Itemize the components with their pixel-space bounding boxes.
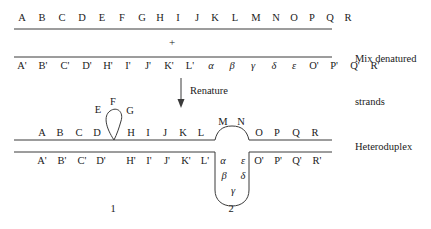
bottom-strand-greek: γ — [251, 60, 255, 71]
hd-bottom-letter: Q' — [292, 155, 301, 166]
loop2-top-arch — [215, 126, 249, 140]
loop2-greek-delta: δ — [241, 170, 246, 181]
top-strand-letter: C — [58, 12, 65, 23]
hd-top-letter: O — [255, 127, 263, 138]
loop1-letter-g: G — [126, 105, 134, 116]
hd-top-letter: Q — [292, 127, 300, 138]
hd-top-letter: K — [179, 127, 187, 138]
hd-top-letter: R — [311, 127, 318, 138]
loop2-greek-alpha: α — [220, 155, 226, 166]
bottom-strand-letter: I' — [125, 60, 130, 71]
hd-bottom-letter: B' — [58, 155, 67, 166]
hd-top-letter: D — [93, 127, 101, 138]
loop-number-2: 2 — [228, 203, 233, 214]
top-strand-letter: Q — [326, 12, 334, 23]
bottom-strand-letter: J' — [145, 60, 151, 71]
hd-top-letter: I — [146, 127, 150, 138]
hd-top-letter: L — [198, 127, 204, 138]
bottom-strand-letter: C' — [61, 60, 70, 71]
top-strand-letter: R — [344, 12, 351, 23]
bottom-strand-letter: A' — [17, 60, 26, 71]
hd-bottom-letter: J' — [164, 155, 170, 166]
hd-bottom-letter: I' — [146, 155, 151, 166]
bottom-strand-greek: α — [208, 60, 214, 71]
top-strand-letter: M — [251, 12, 260, 23]
side-label-heteroduplex: Heteroduplex — [355, 140, 412, 154]
bottom-strand-greek: δ — [272, 60, 277, 71]
top-strand-letter: A — [18, 12, 26, 23]
side-label-mix-denatured: Mix denatured strands — [355, 24, 417, 137]
top-strand-letter: K — [211, 12, 219, 23]
top-strand-letter: H — [156, 12, 164, 23]
hd-bottom-letter: O' — [254, 155, 263, 166]
top-strand-letter: B — [38, 12, 45, 23]
loop2-greek-beta: β — [221, 170, 226, 181]
bottom-strand-letter: B' — [39, 60, 48, 71]
hd-bottom-letter: A' — [37, 155, 46, 166]
loop2-greek-epsilon: ε — [241, 155, 245, 166]
loop1-letter-e: E — [95, 104, 101, 115]
top-strand-letter: N — [272, 12, 280, 23]
top-strand-letter: F — [119, 12, 125, 23]
top-strand-letter: E — [99, 12, 105, 23]
hd-bottom-letter: R' — [313, 155, 322, 166]
loop1-letter-f: F — [110, 96, 116, 107]
hd-bottom-letter: C' — [78, 155, 87, 166]
hd-top-letter: H — [127, 127, 135, 138]
hd-top-letter: A — [38, 127, 46, 138]
loop1-teardrop — [106, 109, 122, 140]
hd-bottom-letter: D' — [96, 155, 105, 166]
top-strand-letter: J — [195, 12, 199, 23]
bottom-strand-letter: O' — [309, 60, 318, 71]
hd-bottom-letter: K' — [181, 155, 190, 166]
hd-top-letter: B — [56, 127, 63, 138]
bottom-strand-letter: P' — [330, 60, 338, 71]
bottom-strand-letter: D' — [82, 60, 91, 71]
top-strand-letter: D — [78, 12, 86, 23]
loop-number-1: 1 — [110, 203, 115, 214]
top-strand-letter: O — [290, 12, 298, 23]
bottom-strand-greek: β — [229, 60, 234, 71]
top-strand-letter: I — [176, 12, 180, 23]
hd-top-letter: C — [75, 127, 82, 138]
plus-operator: + — [169, 36, 175, 48]
hd-top-letter: J — [163, 127, 167, 138]
bottom-strand-greek: ε — [292, 60, 296, 71]
hd-bottom-letter: P' — [274, 155, 282, 166]
top-strand-letter: L — [232, 12, 238, 23]
hd-bottom-letter: H' — [126, 155, 135, 166]
hd-top-letter: P — [274, 127, 280, 138]
bottom-strand-letter: K' — [164, 60, 173, 71]
loop2-letter-n: N — [237, 116, 245, 127]
bottom-strand-letter: H' — [103, 60, 112, 71]
top-strand-letter: P — [309, 12, 315, 23]
top-strand-letter: G — [138, 12, 146, 23]
loop2-greek-gamma: γ — [231, 185, 235, 196]
renature-label: Renature — [190, 85, 228, 96]
hd-bottom-letter: L' — [201, 155, 209, 166]
loop2-letter-m: M — [218, 116, 227, 127]
side-label-line-1: Mix denatured — [355, 52, 417, 66]
bottom-strand-letter: L' — [186, 60, 194, 71]
figure-root: A B C D E F G H I J K L M N O P Q R + A'… — [0, 0, 431, 229]
side-label-line-2: strands — [355, 95, 417, 109]
renature-arrow-head — [178, 99, 185, 108]
